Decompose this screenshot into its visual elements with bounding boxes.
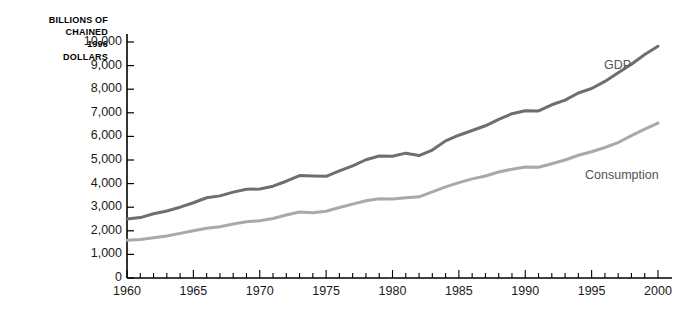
y-tick-label: 2,000 [40, 223, 122, 237]
y-axis-ticks [127, 42, 134, 278]
x-tick-label: 1960 [97, 284, 157, 298]
y-tick-label: 3,000 [40, 199, 122, 213]
y-tick-label: 6,000 [40, 128, 122, 142]
y-tick-label: 4,000 [40, 176, 122, 190]
x-tick-label: 1990 [495, 284, 555, 298]
y-tick-label: 8,000 [40, 81, 122, 95]
x-tick-label: 1965 [163, 284, 223, 298]
x-tick-label: 1980 [363, 284, 423, 298]
x-axis-ticks [127, 270, 658, 278]
y-tick-label: 1,000 [40, 246, 122, 260]
x-tick-label: 1995 [562, 284, 622, 298]
data-series [127, 46, 658, 240]
y-tick-label: 0 [40, 270, 122, 284]
series-line-gdp [127, 46, 658, 219]
series-line-consumption [127, 123, 658, 240]
x-tick-label: 1985 [429, 284, 489, 298]
y-tick-label: 9,000 [40, 58, 122, 72]
x-tick-label: 1975 [296, 284, 356, 298]
y-tick-label: 5,000 [40, 152, 122, 166]
y-tick-label: 10,000 [40, 34, 122, 48]
x-tick-label: 2000 [628, 284, 688, 298]
x-tick-label: 1970 [230, 284, 290, 298]
series-label-consumption: Consumption [585, 168, 659, 182]
y-tick-label: 7,000 [40, 105, 122, 119]
gdp-consumption-line-chart: BILLIONS OF CHAINED 1996 DOLLARS 01,0002… [0, 0, 694, 317]
series-label-gdp: GDP [604, 58, 631, 72]
